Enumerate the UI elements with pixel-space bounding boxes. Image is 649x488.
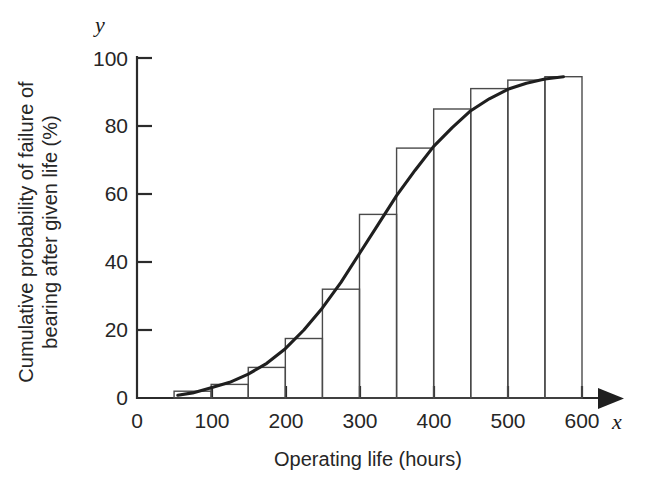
x-tick-label-100: 100 xyxy=(194,409,229,432)
x-tick-label-200: 200 xyxy=(268,409,303,432)
axis-path xyxy=(137,57,600,398)
figure-container: 0 20 40 60 80 100 0 100 200 300 400 500 … xyxy=(0,0,649,488)
histogram-bars xyxy=(174,77,582,398)
x-tick-label-500: 500 xyxy=(490,409,525,432)
y-tick-label-20: 20 xyxy=(105,318,128,341)
fitted-cumulative-curve xyxy=(178,77,564,396)
y-tick-label-60: 60 xyxy=(105,182,128,205)
y-tick-label-80: 80 xyxy=(105,114,128,137)
histogram-bar xyxy=(508,80,545,398)
y-axis-title-line2: bearing after given life (%) xyxy=(39,115,61,348)
x-axis-arrow-icon xyxy=(598,388,624,409)
histogram-bar xyxy=(471,89,508,398)
y-tick-label-0: 0 xyxy=(116,386,128,409)
histogram-bar xyxy=(545,77,582,398)
axis-lines xyxy=(137,57,624,409)
y-tick-label-40: 40 xyxy=(105,250,128,273)
x-tick-label-0: 0 xyxy=(131,409,143,432)
x-axis-title: Operating life (hours) xyxy=(274,448,462,470)
y-axis-symbol: y xyxy=(93,12,105,37)
y-axis-title-line1: Cumulative probability of failure of xyxy=(15,81,37,383)
y-tick-label-100: 100 xyxy=(93,47,128,70)
histogram-bar xyxy=(434,109,471,398)
y-tick-marks xyxy=(137,58,152,330)
cumulative-failure-chart: 0 20 40 60 80 100 0 100 200 300 400 500 … xyxy=(0,0,649,488)
y-tick-labels: 0 20 40 60 80 100 xyxy=(93,47,128,409)
x-tick-label-300: 300 xyxy=(342,409,377,432)
y-axis-title: Cumulative probability of failure of bea… xyxy=(15,81,61,383)
x-tick-labels: 0 100 200 300 400 500 600 xyxy=(131,409,599,432)
histogram-bar xyxy=(285,339,322,399)
x-axis-symbol: x xyxy=(611,409,622,434)
x-tick-label-600: 600 xyxy=(564,409,599,432)
histogram-bar xyxy=(360,214,397,398)
histogram-bar xyxy=(322,289,359,398)
x-tick-label-400: 400 xyxy=(416,409,451,432)
